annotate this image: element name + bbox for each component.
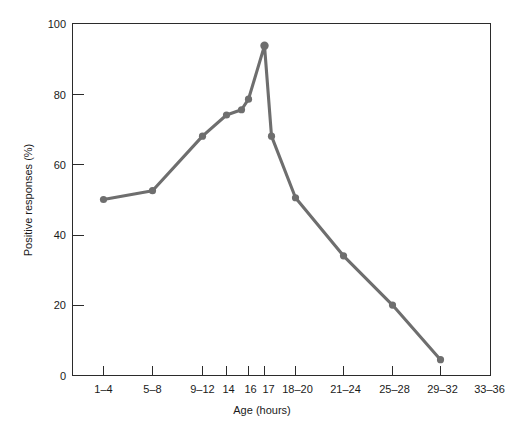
data-point-marker [245, 96, 252, 103]
y-tick-label-80: 80 [54, 89, 66, 101]
data-point-marker [260, 41, 268, 49]
y-tick-label-20: 20 [54, 299, 66, 311]
y-tick-label-0: 0 [60, 370, 66, 382]
x-tick-label-9-12: 9–12 [190, 383, 214, 395]
y-tick-label-100: 100 [48, 18, 66, 30]
x-tick-label-17: 17 [262, 383, 274, 395]
data-point-marker [223, 111, 230, 118]
x-tick-label-5-8: 5–8 [143, 383, 161, 395]
x-tick-label-18-20: 18–20 [282, 383, 313, 395]
data-point-marker [149, 187, 156, 194]
x-tick-label-1-4: 1–4 [94, 383, 112, 395]
x-tick-label-16: 16 [244, 383, 256, 395]
data-point-marker [238, 106, 245, 113]
data-point-marker [437, 356, 444, 363]
x-tick-label-33-36: 33–36 [474, 383, 505, 395]
data-point-marker [100, 196, 107, 203]
x-tick-label-25-28: 25–28 [379, 383, 410, 395]
data-point-marker [268, 133, 275, 140]
data-point-marker [199, 133, 206, 140]
data-point-marker [389, 302, 396, 309]
line-chart-svg: 0 20 40 60 80 100 Positive responses (%)… [0, 0, 518, 436]
x-tick-label-14: 14 [222, 383, 234, 395]
x-axis-tick-labels: 1–4 5–8 9–12 14 16 17 18–20 21–24 25–28 … [94, 383, 504, 395]
x-axis-title: Age (hours) [233, 404, 290, 416]
y-axis-title: Positive responses (%) [22, 144, 34, 257]
x-tick-label-29-32: 29–32 [427, 383, 458, 395]
y-tick-label-60: 60 [54, 159, 66, 171]
data-point-marker [340, 252, 347, 259]
data-point-marker [292, 194, 299, 201]
chart-figure: 0 20 40 60 80 100 Positive responses (%)… [0, 0, 518, 436]
x-tick-label-21-24: 21–24 [330, 383, 361, 395]
y-tick-label-40: 40 [54, 229, 66, 241]
